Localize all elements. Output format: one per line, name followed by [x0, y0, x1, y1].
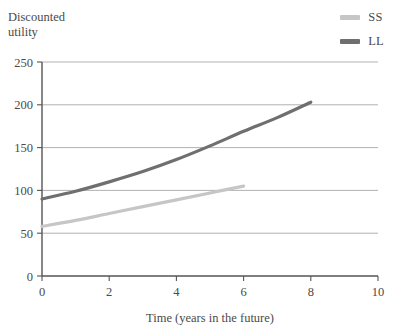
- y-tick-label: 250: [14, 56, 33, 70]
- y-tick-label: 0: [27, 270, 33, 284]
- y-tick-label: 150: [14, 141, 33, 155]
- x-axis: 0246810: [39, 276, 384, 299]
- x-axis-title: Time (years in the future): [146, 311, 274, 325]
- x-tick-label: 2: [106, 285, 112, 299]
- x-tick-label: 4: [173, 285, 180, 299]
- plot-area: 050100150200250 0246810 Time (years in t…: [0, 0, 396, 330]
- y-tick-label: 200: [14, 98, 33, 112]
- y-tick-label: 100: [14, 184, 33, 198]
- series-line-ll: [42, 102, 311, 199]
- data-series: [42, 102, 311, 226]
- x-tick-label: 10: [372, 285, 385, 299]
- x-tick-label: 6: [240, 285, 246, 299]
- discounted-utility-chart: Discounted utility SS LL 050100150200250…: [0, 0, 396, 330]
- x-tick-label: 8: [308, 285, 314, 299]
- x-tick-label: 0: [39, 285, 45, 299]
- y-axis: 050100150200250: [14, 56, 42, 284]
- y-tick-label: 50: [21, 227, 34, 241]
